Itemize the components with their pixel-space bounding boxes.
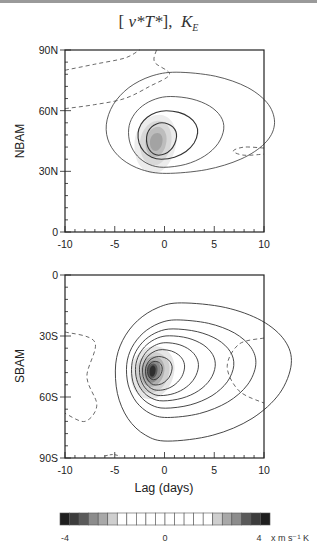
colorbar-box	[241, 513, 251, 525]
x-tick-label: -10	[57, 238, 72, 250]
colorbar-max-label: 4	[256, 533, 261, 543]
x-tick-label: -5	[110, 238, 119, 250]
figure: -10-50510030N60N90N NBAM -10-5051090S60S…	[0, 0, 317, 554]
colorbar-box	[89, 513, 99, 525]
colorbar-mid-label: 0	[162, 533, 167, 543]
negative-contour	[65, 50, 140, 70]
colorbar-box	[222, 513, 232, 525]
colorbar-units: x m s⁻¹ K	[271, 533, 309, 543]
colorbar-box	[260, 513, 270, 525]
x-tick-label: 5	[211, 238, 217, 250]
colorbar-box	[146, 513, 156, 525]
colorbar-box	[232, 513, 242, 525]
colorbar-box	[127, 513, 137, 525]
contour-line	[106, 72, 274, 173]
x-tick-label: 10	[258, 464, 270, 476]
x-tick-label: 0	[162, 238, 168, 250]
colorbar-box	[70, 513, 80, 525]
negative-contour	[105, 455, 120, 457]
y-tick-label: 0	[52, 226, 58, 238]
colorbar-min-label: -4	[61, 533, 69, 543]
colorbar-box	[251, 513, 261, 525]
x-tick-label: -10	[57, 464, 72, 476]
colorbar-box	[175, 513, 185, 525]
y-tick-label: 60S	[39, 391, 58, 403]
colorbar-box	[108, 513, 118, 525]
colorbar-box	[155, 513, 165, 525]
colorbar-box	[98, 513, 108, 525]
colorbar-box	[79, 513, 89, 525]
y-tick-label: 0	[52, 269, 58, 281]
colorbar	[60, 513, 270, 525]
contours-sbam	[65, 303, 291, 456]
x-tick-label: 10	[258, 238, 270, 250]
y-tick-label: 90S	[39, 452, 58, 464]
colorbar-box	[117, 513, 127, 525]
colorbar-box	[60, 513, 70, 525]
panel-nbam: -10-50510030N60N90N NBAM	[13, 44, 275, 250]
colorbar-box	[136, 513, 146, 525]
x-tick-label: -5	[110, 464, 119, 476]
y-tick-label: 90N	[39, 44, 58, 56]
colorbar-box	[194, 513, 204, 525]
colorbar-box	[203, 513, 213, 525]
xlabel: Lag (days)	[134, 481, 193, 495]
colorbar-box	[213, 513, 223, 525]
y-tick-label: 30S	[39, 330, 58, 342]
panel-sbam: -10-5051090S60S30S0 SBAM Lag (days)	[13, 269, 291, 495]
ylabel-nbam: NBAM	[13, 124, 27, 159]
y-tick-label: 30N	[39, 165, 58, 177]
negative-contour	[65, 332, 97, 422]
x-tick-label: 0	[162, 464, 168, 476]
colorbar-box	[165, 513, 175, 525]
x-tick-label: 5	[211, 464, 217, 476]
ylabel-sbam: SBAM	[13, 349, 27, 383]
shading-nbam	[134, 115, 176, 174]
colorbar-box	[184, 513, 194, 525]
y-tick-label: 60N	[39, 105, 58, 117]
